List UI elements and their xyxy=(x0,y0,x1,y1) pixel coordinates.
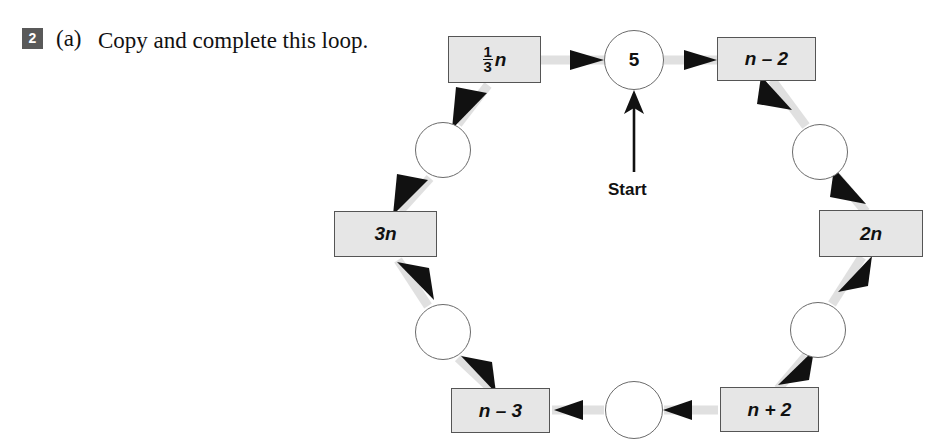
node-n-minus-3: n – 3 xyxy=(451,388,550,433)
node-n-plus-2: n + 2 xyxy=(720,387,819,432)
node-n-minus-2: n – 2 xyxy=(717,37,816,81)
node-three-n: 3n xyxy=(334,211,437,257)
node-blank-top-right[interactable] xyxy=(792,124,848,180)
start-arrow-icon xyxy=(624,90,644,172)
node-one-third-n: 1 3 n xyxy=(448,36,541,83)
start-label: Start xyxy=(608,180,647,200)
node-blank-bottom-left[interactable] xyxy=(415,304,471,360)
node-two-n: 2n xyxy=(819,210,923,257)
fraction-denominator: 3 xyxy=(483,59,493,74)
fraction-suffix: n xyxy=(495,49,507,71)
fraction-numerator: 1 xyxy=(483,45,493,59)
node-blank-top-left[interactable] xyxy=(415,122,471,178)
node-start-value-5: 5 xyxy=(604,30,664,90)
node-blank-bottom-right[interactable] xyxy=(790,302,846,358)
node-blank-bottom-center[interactable] xyxy=(605,381,663,439)
worksheet-page: 2 (a) Copy and complete this loop. xyxy=(0,0,946,446)
fraction-one-third: 1 3 xyxy=(483,45,493,74)
